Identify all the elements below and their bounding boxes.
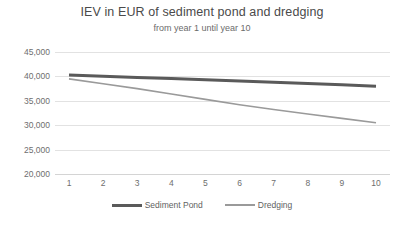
- legend-item-dredging[interactable]: Dredging: [225, 200, 293, 210]
- x-axis-tick-label: 8: [296, 178, 320, 188]
- series-lines: [55, 52, 390, 174]
- chart-container: IEV in EUR of sediment pond and dredging…: [0, 0, 404, 225]
- legend: Sediment PondDredging: [0, 200, 404, 210]
- x-axis-tick-label: 2: [91, 178, 115, 188]
- plot-area: [55, 52, 390, 174]
- y-axis-tick-label: 25,000: [4, 145, 50, 155]
- x-axis-tick-label: 3: [125, 178, 149, 188]
- chart-title: IEV in EUR of sediment pond and dredging: [0, 5, 404, 19]
- legend-label: Sediment Pond: [145, 200, 203, 210]
- legend-label: Dredging: [258, 200, 293, 210]
- x-axis-tick-label: 4: [159, 178, 183, 188]
- y-axis-tick-label: 35,000: [4, 96, 50, 106]
- series-line-sediment-pond: [69, 75, 376, 86]
- x-axis-tick-label: 6: [228, 178, 252, 188]
- x-axis-tick-label: 9: [330, 178, 354, 188]
- legend-swatch: [225, 204, 255, 206]
- legend-item-sediment-pond[interactable]: Sediment Pond: [112, 200, 203, 210]
- y-axis-tick-label: 45,000: [4, 47, 50, 57]
- x-axis-tick-label: 7: [262, 178, 286, 188]
- chart-subtitle: from year 1 until year 10: [0, 23, 404, 33]
- x-axis-tick-label: 1: [57, 178, 81, 188]
- y-axis-tick-label: 20,000: [4, 169, 50, 179]
- y-axis-tick-label: 40,000: [4, 71, 50, 81]
- y-axis-tick-label: 30,000: [4, 120, 50, 130]
- axis-baseline: [55, 174, 390, 175]
- x-axis-tick-label: 10: [364, 178, 388, 188]
- legend-swatch: [112, 204, 142, 207]
- x-axis-tick-label: 5: [193, 178, 217, 188]
